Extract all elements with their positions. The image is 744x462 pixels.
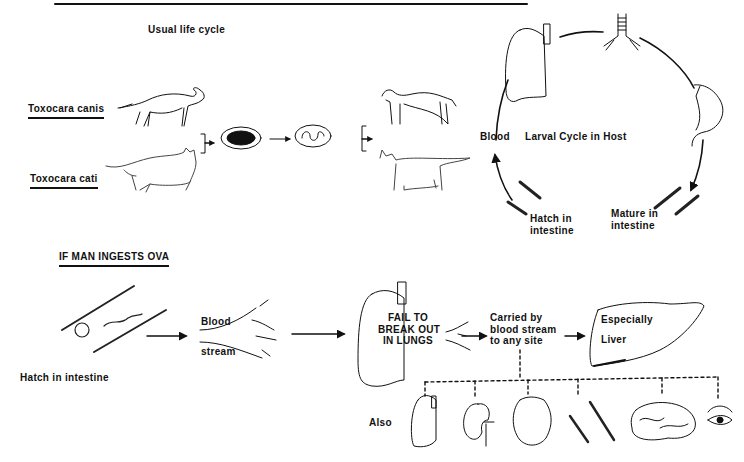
stream-label: stream: [201, 346, 236, 358]
lungs-line-2: BREAK OUT: [378, 324, 438, 336]
hatch-in-intestine-label-man: Hatch in intestine: [20, 372, 109, 384]
carried-line-3: to any site: [490, 335, 556, 347]
egg-unembryonated: [221, 127, 261, 149]
lung-illustration: [506, 24, 550, 102]
carried-by-blood-label: Carried by blood stream to any site: [490, 312, 556, 347]
blood-label-cycle: Blood: [480, 131, 510, 143]
diagram-artwork: [0, 0, 744, 462]
larval-cycle-title: Larval Cycle in Host: [525, 131, 627, 143]
dashed-distribution-lines: [425, 350, 718, 398]
especially-liver-label: Especially Liver: [601, 314, 653, 345]
egg-embryonated: [295, 125, 331, 147]
organ-lung-small: [411, 396, 436, 447]
organ-kidney: [464, 404, 494, 446]
larval-cycle-circle: [495, 32, 703, 200]
if-man-ingests-ova-title: IF MAN INGESTS OVA: [59, 251, 169, 267]
toxocara-cati-label: Toxocara cati: [30, 173, 98, 189]
dog-illustration: [118, 88, 204, 126]
cat-illustration-right: [380, 150, 470, 190]
lungs-line-1: FAIL TO: [378, 312, 438, 324]
organ-muscle: [570, 402, 614, 442]
carried-line-2: blood stream: [490, 324, 556, 336]
blood-label: Blood: [201, 316, 231, 328]
stomach-illustration: [692, 85, 723, 146]
also-label: Also: [369, 417, 392, 429]
hatch-line-1: Hatch in: [530, 213, 574, 225]
carried-line-1: Carried by: [490, 312, 556, 324]
liver-line-2: Liver: [601, 334, 653, 346]
organ-brain: [631, 402, 695, 439]
trachea-illustration: [604, 14, 640, 50]
hatch-in-intestine-label: Hatch in intestine: [530, 213, 574, 236]
dog-illustration-right: [382, 90, 456, 124]
toxocara-canis-label: Toxocara canis: [28, 103, 104, 119]
usual-life-cycle-title: Usual life cycle: [148, 24, 225, 36]
mature-line-2: intestine: [611, 220, 658, 232]
intestine-worms-illustration: [62, 286, 166, 352]
liver-line-1: Especially: [601, 314, 653, 326]
mature-in-intestine-label: Mature in intestine: [611, 208, 658, 231]
fail-to-break-out-label: FAIL TO BREAK OUT IN LUNGS: [378, 312, 438, 347]
hatch-line-2: intestine: [530, 225, 574, 237]
mature-line-1: Mature in: [611, 208, 658, 220]
worm-illustrations: [508, 182, 698, 214]
lungs-line-3: IN LUNGS: [378, 335, 438, 347]
organ-heart: [513, 397, 551, 445]
cat-illustration: [106, 148, 196, 192]
organ-eye: [708, 406, 732, 425]
